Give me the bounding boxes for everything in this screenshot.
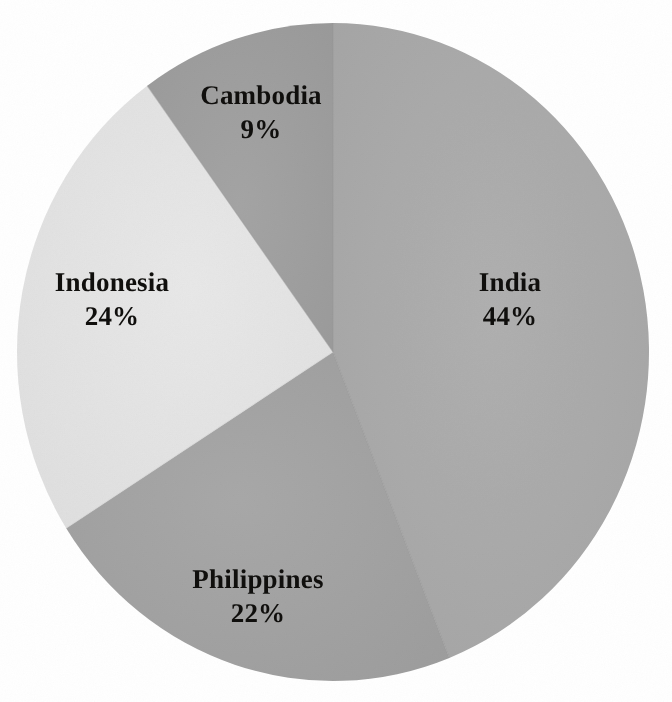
slice-label-name: Indonesia bbox=[55, 267, 169, 299]
pie-chart-figure: India 44% Philippines 22% Indonesia 24% … bbox=[0, 0, 672, 702]
slice-label-indonesia: Indonesia 24% bbox=[55, 267, 169, 333]
pie-chart-canvas bbox=[0, 0, 672, 702]
slice-label-value: 44% bbox=[479, 301, 542, 333]
slice-label-cambodia: Cambodia 9% bbox=[200, 80, 322, 146]
slice-label-india: India 44% bbox=[479, 267, 542, 333]
slice-label-name: Philippines bbox=[192, 564, 323, 596]
slice-label-philippines: Philippines 22% bbox=[192, 564, 323, 630]
slice-label-name: India bbox=[479, 267, 542, 299]
slice-label-name: Cambodia bbox=[200, 80, 322, 112]
slice-label-value: 24% bbox=[55, 301, 169, 333]
slice-label-value: 9% bbox=[200, 114, 322, 146]
slice-label-value: 22% bbox=[192, 598, 323, 630]
